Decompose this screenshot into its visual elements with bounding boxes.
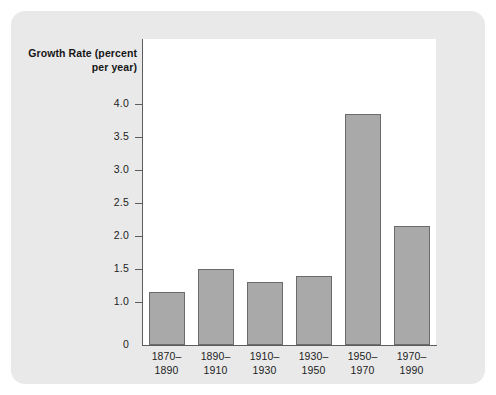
bar: [345, 114, 381, 345]
bar: [198, 269, 234, 345]
y-tick-label: 4.0: [89, 97, 129, 109]
y-tick-label: 2.5: [89, 196, 129, 208]
y-tick-mark: [135, 104, 142, 105]
y-tick-mark: [135, 137, 142, 138]
y-axis-title: Growth Rate (percent per year): [27, 47, 137, 74]
y-tick-mark: [135, 302, 142, 303]
y-tick-label: 3.5: [89, 130, 129, 142]
bar: [394, 226, 430, 345]
y-axis-title-line-2: (percent: [95, 47, 137, 59]
bar: [296, 276, 332, 345]
y-axis-title-line-3: per year): [92, 61, 137, 73]
y-axis-title-line-1: Growth Rate: [28, 47, 92, 59]
x-axis-label-line: 1970–: [382, 350, 441, 364]
x-axis-label-line: 1990: [382, 364, 441, 378]
y-tick-label: 0: [89, 338, 129, 350]
y-tick-mark: [135, 203, 142, 204]
y-tick-label: 3.0: [89, 163, 129, 175]
y-tick-label: 2.0: [89, 229, 129, 241]
y-tick-label: 1.0: [89, 295, 129, 307]
bar: [247, 282, 283, 345]
y-tick-label: 1.5: [89, 262, 129, 274]
bar: [149, 292, 185, 345]
y-axis-line: [142, 39, 143, 346]
y-tick-mark: [135, 170, 142, 171]
x-axis-line: [142, 345, 437, 346]
chart-figure: Growth Rate (percent per year) 4.03.53.0…: [11, 11, 485, 384]
plot-area: [142, 39, 436, 345]
y-tick-mark: [135, 269, 142, 270]
x-axis-label: 1970–1990: [382, 350, 441, 377]
y-tick-mark: [135, 236, 142, 237]
